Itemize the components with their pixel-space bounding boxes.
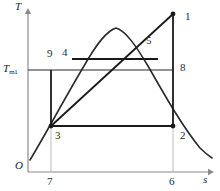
ts-diagram-figure: T s O Tm1 7 6 1 2 3 4 5 8 9 xyxy=(0,0,220,191)
state-label-3: 3 xyxy=(55,130,61,141)
state-dot-2 xyxy=(171,124,176,129)
state-label-2: 2 xyxy=(180,130,186,141)
temperature-tick-sub: m1 xyxy=(9,68,18,76)
state-dot-1 xyxy=(171,12,176,17)
temperature-tick-label: Tm1 xyxy=(3,63,18,74)
x-tick-label-6: 6 xyxy=(169,176,175,187)
y-axis-label: T xyxy=(15,1,21,12)
state-label-4: 4 xyxy=(62,47,68,58)
state-label-8: 8 xyxy=(180,62,186,73)
plot-canvas xyxy=(0,0,220,191)
x-axis-label: s xyxy=(203,174,207,185)
state-label-5: 5 xyxy=(146,35,152,46)
state-dot-3 xyxy=(49,124,54,129)
y-axis xyxy=(25,8,31,172)
x-tick-label-7: 7 xyxy=(47,176,53,187)
state-label-9: 9 xyxy=(47,48,53,59)
x-axis xyxy=(28,169,214,175)
origin-label: O xyxy=(15,160,23,171)
state-label-1: 1 xyxy=(185,11,191,22)
